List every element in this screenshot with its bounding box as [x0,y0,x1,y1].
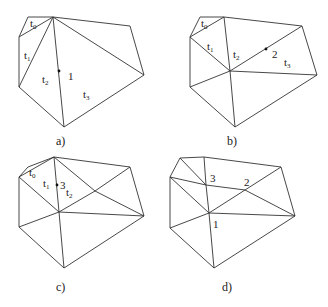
point-label: 1 [213,218,219,230]
triangle-edge [54,157,130,167]
triangle-label: t1 [207,40,214,54]
point-label: 3 [210,172,216,184]
triangle-label: t2 [42,73,49,87]
triangle-edge [230,71,317,75]
triangle-label: t1 [24,49,31,63]
triangle-label: t0 [201,17,208,31]
triangle-edge [224,17,230,71]
triangle-edge [19,87,64,127]
triangle-edge [245,190,295,216]
triangle-edge [180,158,206,185]
triangle-edge [95,191,144,216]
triangle-label: t2 [233,48,240,62]
triangle-edge [209,190,245,213]
triangle-edge [53,17,144,75]
panel-caption: b) [227,134,237,148]
panel-a: 1t0t1t2t3a) [19,17,144,148]
triangle-edge [19,167,28,177]
triangle-label: t1 [43,177,50,191]
triangle-edge [19,212,59,227]
triangle-edge [245,167,281,190]
triangle-edge [64,216,144,268]
point-label: 2 [272,48,278,60]
point-label: 2 [244,176,250,188]
triangle-edge [130,167,144,216]
panel-caption: d) [222,280,232,294]
triangulation-figure: 1t0t1t2t3a)2t0t1t2t3b)3t0t1t2c)321d) [0,0,328,307]
triangle-edge [224,17,302,26]
triangle-edge [214,216,295,268]
triangle-edge [19,177,59,212]
inserted-point [265,48,268,51]
inserted-point [56,184,59,187]
inserted-point [58,70,61,73]
triangle-edge [59,212,64,268]
triangle-label: t3 [284,56,291,70]
triangle-edge [190,71,230,87]
triangle-edge [190,87,235,127]
triangle-edge [95,167,130,191]
triangle-label: t3 [83,88,90,102]
triangle-edge [180,157,204,158]
panel-caption: a) [56,134,65,148]
triangle-edge [170,213,209,228]
triangle-edge [209,213,295,216]
triangle-edge [206,185,245,190]
triangle-label: t2 [66,186,73,200]
triangle-edge [170,177,206,185]
triangulation-diagram: 1t0t1t2t3a)2t0t1t2t3b)3t0t1t2c)321d) [0,0,328,307]
triangle-edge [19,227,64,268]
triangle-edge [281,167,295,216]
triangle-edge [170,158,180,177]
triangle-edge [302,26,317,75]
panel-caption: c) [56,280,65,294]
triangle-edge [204,157,281,167]
triangle-label: t0 [30,17,37,31]
triangle-edge [230,71,235,127]
triangle-edge [64,75,144,127]
triangle-edge [19,157,54,177]
panel-d: 321d) [170,157,295,294]
triangle-edge [59,212,144,216]
point-label: 1 [68,70,74,82]
panel-c: 3t0t1t2c) [19,157,144,294]
triangle-edge [170,228,214,268]
triangle-edge [204,157,206,185]
triangle-edge [235,75,317,127]
triangle-edge [206,185,209,213]
panel-b: 2t0t1t2t3b) [190,17,317,148]
triangle-edge [59,191,95,212]
